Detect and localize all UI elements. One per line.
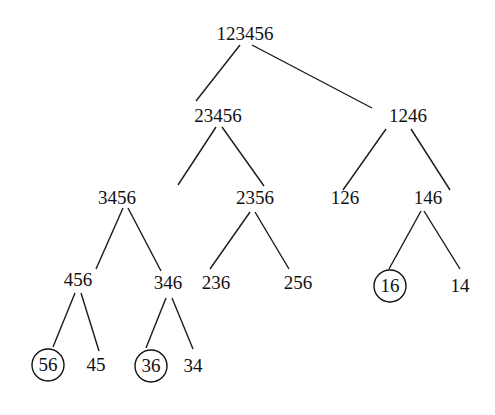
node-label: 23456 (194, 105, 242, 126)
tree-edge (343, 129, 386, 190)
node-label: 56 (39, 354, 58, 375)
tree-node: 14 (451, 275, 471, 296)
tree-node: 236 (202, 272, 231, 293)
tree-edge (146, 298, 166, 348)
tree-node-circled: 36 (135, 350, 167, 382)
tree-edge (172, 298, 193, 349)
tree-diagram: 1234562345612463456235612614645634623625… (0, 0, 495, 415)
tree-edge (424, 211, 460, 269)
node-label: 236 (202, 272, 231, 293)
node-label: 456 (64, 269, 93, 290)
tree-node-circled: 56 (32, 349, 64, 381)
node-label: 346 (154, 272, 183, 293)
node-label: 14 (451, 275, 471, 296)
tree-edge (196, 45, 240, 101)
tree-node: 346 (154, 272, 183, 293)
node-label: 34 (184, 355, 204, 376)
tree-edge (53, 293, 75, 347)
tree-nodes: 1234562345612463456235612614645634623625… (32, 23, 470, 382)
tree-node: 126 (331, 187, 360, 208)
tree-node: 123456 (217, 23, 274, 44)
tree-edge (222, 127, 264, 186)
node-label: 1246 (389, 105, 427, 126)
tree-node: 256 (284, 272, 313, 293)
tree-edge (128, 208, 161, 271)
tree-node: 146 (414, 187, 443, 208)
tree-edge (210, 212, 250, 269)
node-label: 3456 (98, 187, 136, 208)
node-label: 45 (87, 354, 106, 375)
tree-node: 1246 (389, 105, 427, 126)
tree-node: 2356 (236, 187, 274, 208)
tree-edge (255, 212, 289, 269)
tree-edge (178, 127, 216, 185)
node-label: 146 (414, 187, 443, 208)
node-label: 123456 (217, 23, 274, 44)
tree-edge (81, 293, 99, 351)
node-label: 16 (381, 275, 400, 296)
tree-edge (389, 211, 421, 269)
tree-node: 23456 (194, 105, 242, 126)
tree-edge (411, 129, 450, 190)
node-label: 2356 (236, 187, 274, 208)
node-label: 126 (331, 187, 360, 208)
tree-node: 34 (184, 355, 204, 376)
tree-node: 45 (87, 354, 106, 375)
node-label: 256 (284, 272, 313, 293)
tree-node-circled: 16 (374, 270, 406, 302)
tree-node: 3456 (98, 187, 136, 208)
node-label: 36 (142, 355, 161, 376)
tree-node: 456 (64, 269, 93, 290)
tree-edge (96, 208, 123, 269)
tree-edge (252, 45, 372, 108)
